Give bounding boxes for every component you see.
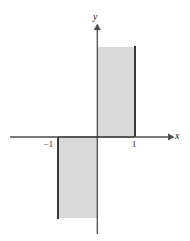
x-tick-label-negative-one: −1 <box>44 140 53 149</box>
figure-container: y x −1 1 <box>0 0 190 241</box>
upper-shaded-rectangle <box>98 47 136 137</box>
plot-area <box>0 0 190 241</box>
y-axis-arrowhead <box>94 24 101 31</box>
x-axis-arrowhead <box>168 133 175 140</box>
lower-shaded-rectangle <box>58 137 98 218</box>
graph-svg <box>0 0 190 241</box>
y-axis-label: y <box>93 12 97 22</box>
x-axis-label: x <box>175 131 179 141</box>
x-tick-label-positive-one: 1 <box>132 140 136 149</box>
